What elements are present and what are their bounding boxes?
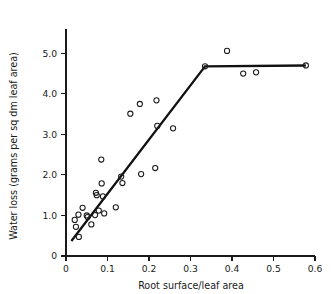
chart-canvas: 01.02.03.04.05.000.10.20.30.40.50.6 Root… [0,0,333,294]
x-axis-title: Root surface/leaf area [138,280,244,291]
x-tick-label: 0.2 [142,263,157,274]
data-point [253,70,258,75]
data-point [76,234,81,239]
axes [66,29,315,256]
x-tick-label: 0.3 [183,263,198,274]
y-axis-title: Water loss (grams per sq dm leaf area) [8,52,19,240]
data-point [72,217,77,222]
data-point [113,205,118,210]
data-point [224,48,229,53]
data-point [128,111,133,116]
x-tick-label: 0 [63,263,69,274]
data-point [73,224,78,229]
data-point [89,222,94,227]
x-tick-label: 0.6 [308,263,323,274]
data-points [72,48,308,239]
data-point [120,180,125,185]
axis-spines [66,29,315,256]
scatter-plot-figure: 01.02.03.04.05.000.10.20.30.40.50.6 Root… [0,0,333,294]
x-tick-label: 0.1 [100,263,115,274]
axis-tick-labels: 01.02.03.04.05.000.10.20.30.40.50.6 [42,48,322,274]
data-point [170,126,175,131]
data-point [96,208,101,213]
y-tick-label: 3.0 [42,129,57,140]
data-point [99,181,104,186]
data-point [241,71,246,76]
y-tick-label: 5.0 [42,48,57,59]
data-point [92,212,97,217]
data-point [153,165,158,170]
y-tick-label: 4.0 [42,88,57,99]
data-point [139,172,144,177]
x-tick-label: 0.5 [266,263,281,274]
data-point [76,212,81,217]
data-point [102,211,107,216]
y-tick-label: 2.0 [42,169,57,180]
data-point [137,101,142,106]
data-point [154,98,159,103]
axis-ticks [61,53,315,261]
data-point [80,205,85,210]
y-tick-label: 0 [51,250,57,261]
x-tick-label: 0.4 [225,263,240,274]
y-tick-label: 1.0 [42,210,57,221]
data-point [99,157,104,162]
